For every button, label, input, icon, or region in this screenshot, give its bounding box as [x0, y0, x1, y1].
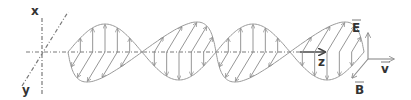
b-vector [352, 59, 368, 78]
b-field-arrow [226, 52, 241, 77]
y-axis [22, 12, 68, 86]
b-field-arrow [352, 37, 361, 52]
v-label: v [381, 62, 389, 76]
z-axis-label: z [318, 55, 325, 69]
b-field-arrow [220, 52, 229, 67]
b-label: B [355, 83, 364, 97]
b-field-arrow [204, 37, 213, 52]
e-label: E [352, 21, 360, 35]
b-field-arrow [78, 52, 93, 77]
y-axis-label: y [22, 83, 30, 97]
b-field-arrow [72, 52, 81, 67]
x-axis-label: x [31, 4, 39, 18]
b-field-arrow [191, 27, 206, 52]
em-wave-diagram: x y z E v B [0, 0, 411, 100]
